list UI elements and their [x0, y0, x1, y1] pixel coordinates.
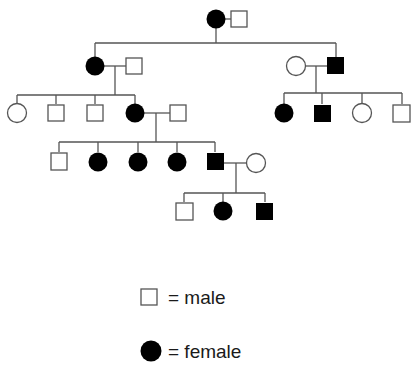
individual-V-1-male: [176, 203, 193, 220]
legend-female-label: = female: [168, 341, 241, 362]
individual-III-4-affected-female: [126, 104, 145, 123]
legend-male-label: = male: [168, 287, 226, 308]
individual-V-3-affected-male: [256, 203, 273, 220]
individual-II-3-female: [287, 57, 306, 76]
individual-IV-6-female: [247, 154, 266, 173]
individual-III-5-male: [170, 105, 186, 121]
individual-IV-4-affected-female: [168, 153, 187, 172]
individual-II-2-male: [126, 58, 142, 74]
individual-I-2-male: [231, 11, 247, 27]
pedigree-lines: [17, 19, 402, 202]
legend: = male = female: [141, 287, 242, 362]
individual-III-9-male: [393, 105, 410, 122]
individual-I-1-affected-female: [207, 10, 226, 29]
individual-III-2-male: [48, 105, 64, 121]
individual-IV-3-affected-female: [129, 153, 148, 172]
legend-male-square-icon: [141, 289, 157, 305]
individual-III-7-affected-male: [314, 105, 331, 122]
individual-II-1-affected-female: [86, 57, 105, 76]
individual-IV-5-affected-male: [207, 153, 224, 170]
individual-II-4-affected-male: [327, 57, 344, 74]
individual-III-8-female: [353, 104, 372, 123]
individual-III-3-male: [87, 105, 103, 121]
individual-III-6-affected-female: [275, 104, 294, 123]
individual-IV-1-male: [51, 153, 67, 170]
individual-III-1-female: [8, 104, 27, 123]
pedigree-diagram: = male = female: [0, 0, 416, 370]
individual-IV-2-affected-female: [89, 153, 108, 172]
legend-female-circle-icon: [141, 341, 162, 362]
individual-V-2-affected-female: [214, 202, 233, 221]
